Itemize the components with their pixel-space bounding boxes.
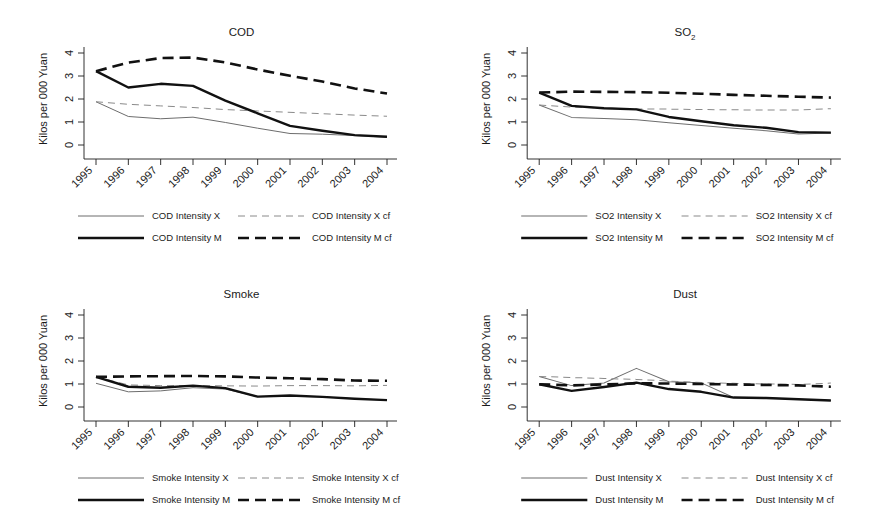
series-line-4 xyxy=(96,58,387,94)
chart-svg: SO201234Kilos per 000 Yuan19951996199719… xyxy=(443,0,887,262)
legend-label-2: SO2 Intensity X cf xyxy=(756,210,832,221)
y-axis-title: Kilos per 000 Yuan xyxy=(480,53,492,145)
x-tick-label: 1995 xyxy=(69,164,95,190)
legend-label-1: SO2 Intensity X xyxy=(595,210,662,221)
legend-label-2: Smoke Intensity X cf xyxy=(312,472,399,483)
x-tick-label: 2001 xyxy=(706,426,732,452)
x-tick-label: 1997 xyxy=(577,426,603,452)
y-axis-title: Kilos per 000 Yuan xyxy=(480,315,492,407)
x-tick-label: 1998 xyxy=(166,164,192,190)
y-tick-label: 1 xyxy=(506,381,518,387)
legend-label-4: Dust Intensity M cf xyxy=(756,494,835,505)
x-tick-label: 2004 xyxy=(360,164,386,190)
series-line-3 xyxy=(96,71,387,137)
legend-label-3: Smoke Intensity M xyxy=(152,494,230,505)
x-tick-label: 1998 xyxy=(609,164,635,190)
x-tick-label: 2000 xyxy=(230,426,256,452)
x-tick-label: 1996 xyxy=(101,164,127,190)
y-tick-label: 0 xyxy=(506,404,518,410)
x-tick-label: 1999 xyxy=(198,426,224,452)
y-axis-title: Kilos per 000 Yuan xyxy=(37,315,49,407)
y-tick-label: 0 xyxy=(506,142,518,148)
chart-svg: COD01234Kilos per 000 Yuan19951996199719… xyxy=(0,0,443,262)
x-tick-label: 1998 xyxy=(166,426,192,452)
legend-label-3: COD Intensity M xyxy=(152,232,222,243)
series-line-2 xyxy=(96,102,387,116)
x-tick-label: 1995 xyxy=(69,426,95,452)
x-tick-label: 1999 xyxy=(198,164,224,190)
y-tick-label: 3 xyxy=(506,73,518,79)
y-tick-label: 4 xyxy=(506,312,518,318)
y-tick-label: 3 xyxy=(63,335,75,341)
x-tick-label: 1995 xyxy=(512,164,538,190)
x-tick-label: 2000 xyxy=(674,164,700,190)
x-tick-label: 2003 xyxy=(327,426,353,452)
legend-label-3: Dust Intensity M xyxy=(595,494,663,505)
x-tick-label: 1996 xyxy=(544,426,570,452)
x-tick-label: 2003 xyxy=(327,164,353,190)
x-tick-label: 2004 xyxy=(803,426,829,452)
x-tick-label: 2003 xyxy=(771,426,797,452)
y-tick-label: 3 xyxy=(506,335,518,341)
panel-smoke: Smoke01234Kilos per 000 Yuan199519961997… xyxy=(0,262,443,524)
legend-label-2: COD Intensity X cf xyxy=(312,210,390,221)
x-tick-label: 2003 xyxy=(771,164,797,190)
chart-svg: Dust01234Kilos per 000 Yuan1995199619971… xyxy=(443,262,887,524)
x-tick-label: 2004 xyxy=(360,426,386,452)
y-tick-label: 4 xyxy=(63,312,75,318)
y-tick-label: 3 xyxy=(63,73,75,79)
panel-dust: Dust01234Kilos per 000 Yuan1995199619971… xyxy=(443,262,887,524)
legend-label-1: Dust Intensity X xyxy=(595,472,662,483)
y-tick-label: 2 xyxy=(506,358,518,364)
legend-label-1: COD Intensity X xyxy=(152,210,221,221)
x-tick-label: 1996 xyxy=(544,164,570,190)
legend-label-2: Dust Intensity X cf xyxy=(756,472,833,483)
chart-title: Dust xyxy=(673,288,697,300)
legend-label-4: COD Intensity M cf xyxy=(312,232,392,243)
y-tick-label: 2 xyxy=(63,96,75,102)
legend-label-3: SO2 Intensity M xyxy=(595,232,663,243)
x-tick-label: 1998 xyxy=(609,426,635,452)
y-axis-title: Kilos per 000 Yuan xyxy=(37,53,49,145)
x-tick-label: 2001 xyxy=(263,164,289,190)
y-tick-label: 1 xyxy=(506,119,518,125)
x-tick-label: 1995 xyxy=(512,426,538,452)
legend-label-4: Smoke Intensity M cf xyxy=(312,494,401,505)
series-line-3 xyxy=(539,93,831,133)
y-tick-label: 1 xyxy=(63,381,75,387)
chart-svg: Smoke01234Kilos per 000 Yuan199519961997… xyxy=(0,262,443,524)
panel-cod: COD01234Kilos per 000 Yuan19951996199719… xyxy=(0,0,443,262)
x-tick-label: 2004 xyxy=(803,164,829,190)
legend-label-1: Smoke Intensity X xyxy=(152,472,229,483)
x-tick-label: 2002 xyxy=(739,164,765,190)
x-tick-label: 2002 xyxy=(295,426,321,452)
series-line-4 xyxy=(539,92,831,98)
x-tick-label: 2000 xyxy=(230,164,256,190)
y-tick-label: 1 xyxy=(63,119,75,125)
chart-title-subscript: 2 xyxy=(691,33,696,42)
series-line-4 xyxy=(539,383,831,386)
chart-title: SO2 xyxy=(674,26,696,42)
x-tick-label: 1997 xyxy=(577,164,603,190)
y-tick-label: 2 xyxy=(506,96,518,102)
legend-label-4: SO2 Intensity M cf xyxy=(756,232,834,243)
x-tick-label: 1999 xyxy=(641,426,667,452)
x-tick-label: 1996 xyxy=(101,426,127,452)
x-tick-label: 2002 xyxy=(295,164,321,190)
chart-title: Smoke xyxy=(224,288,260,300)
panel-so2: SO201234Kilos per 000 Yuan19951996199719… xyxy=(443,0,887,262)
x-tick-label: 2002 xyxy=(739,426,765,452)
figure-container: COD01234Kilos per 000 Yuan19951996199719… xyxy=(0,0,887,524)
y-tick-label: 4 xyxy=(506,50,518,56)
y-tick-label: 2 xyxy=(63,358,75,364)
x-tick-label: 1999 xyxy=(641,164,667,190)
chart-title: COD xyxy=(229,26,255,38)
x-tick-label: 2001 xyxy=(263,426,289,452)
series-line-4 xyxy=(96,376,387,381)
y-tick-label: 4 xyxy=(63,50,75,56)
y-tick-label: 0 xyxy=(63,142,75,148)
y-tick-label: 0 xyxy=(63,404,75,410)
x-tick-label: 2000 xyxy=(674,426,700,452)
x-tick-label: 1997 xyxy=(133,164,159,190)
x-tick-label: 2001 xyxy=(706,164,732,190)
